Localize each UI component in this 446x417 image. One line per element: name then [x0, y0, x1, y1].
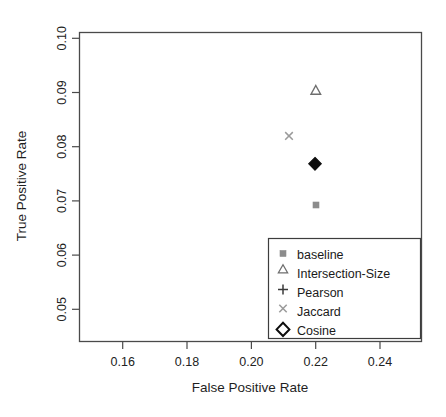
y-tick-label: 0.07 — [55, 189, 69, 213]
data-point-jaccard — [285, 132, 293, 140]
legend-marker-square-icon — [280, 251, 286, 257]
x-tick-label: 0.24 — [368, 355, 392, 369]
plot-canvas: 0.10 0.09 0.08 0.07 0.06 0.05 0.16 0.18 … — [0, 0, 446, 417]
legend-label-cosine: Cosine — [297, 324, 336, 338]
data-point-cosine — [309, 158, 321, 171]
legend: baseline Intersection-Size Pearson Jacca… — [269, 239, 421, 339]
data-points-layer — [285, 86, 321, 209]
x-axis-title: False Positive Rate — [192, 380, 308, 395]
x-axis-tick-labels: 0.16 0.18 0.20 0.22 0.24 — [111, 355, 393, 369]
y-tick-label: 0.08 — [55, 134, 69, 158]
x-tick-label: 0.22 — [304, 355, 328, 369]
y-tick-label: 0.09 — [55, 80, 69, 104]
x-tick-label: 0.16 — [111, 355, 135, 369]
legend-label-intersection-size: Intersection-Size — [297, 267, 390, 281]
y-axis-ticks — [72, 38, 80, 309]
y-tick-label: 0.05 — [55, 297, 69, 321]
y-tick-label: 0.06 — [55, 243, 69, 267]
data-point-intersection-size — [311, 86, 321, 95]
x-tick-label: 0.20 — [239, 355, 263, 369]
scatter-plot-figure: 0.10 0.09 0.08 0.07 0.06 0.05 0.16 0.18 … — [0, 0, 446, 417]
x-tick-label: 0.18 — [175, 355, 199, 369]
legend-label-pearson: Pearson — [297, 286, 344, 300]
y-tick-label: 0.10 — [55, 26, 69, 50]
y-axis-title: True Positive Rate — [14, 131, 29, 242]
y-axis-tick-labels: 0.10 0.09 0.08 0.07 0.06 0.05 — [55, 26, 69, 321]
legend-frame — [269, 239, 421, 339]
legend-label-baseline: baseline — [297, 248, 344, 262]
data-point-baseline — [313, 202, 319, 208]
x-axis-ticks — [123, 342, 380, 350]
legend-label-jaccard: Jaccard — [297, 305, 341, 319]
